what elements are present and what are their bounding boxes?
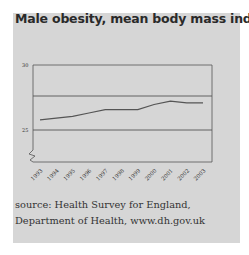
svg-text:1998: 1998 xyxy=(111,167,125,181)
svg-text:2003: 2003 xyxy=(193,167,207,181)
svg-text:1996: 1996 xyxy=(78,167,92,181)
y-axis-labels: 2530 xyxy=(22,62,28,133)
axis-break-icon xyxy=(29,150,35,162)
x-axis-labels: 1993199419951996199719981999200020012002… xyxy=(30,167,207,181)
svg-text:1997: 1997 xyxy=(95,167,109,181)
svg-text:2002: 2002 xyxy=(176,168,190,182)
svg-text:1993: 1993 xyxy=(30,167,44,181)
svg-text:2001: 2001 xyxy=(160,168,174,182)
svg-text:1999: 1999 xyxy=(127,167,141,181)
svg-text:1994: 1994 xyxy=(46,167,60,181)
gridlines xyxy=(33,65,212,162)
svg-text:1995: 1995 xyxy=(62,167,76,181)
svg-text:2000: 2000 xyxy=(144,167,158,181)
source-note: source: Health Survey for England, Depar… xyxy=(15,197,225,229)
bmi-line xyxy=(40,101,203,120)
svg-text:25: 25 xyxy=(22,127,28,133)
svg-text:30: 30 xyxy=(22,62,28,68)
